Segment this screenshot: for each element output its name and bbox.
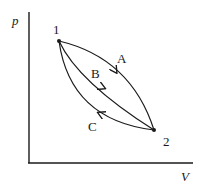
path-a-label: A <box>117 51 127 66</box>
state-point-1 <box>57 39 61 43</box>
point-2-label: 2 <box>163 134 170 149</box>
y-axis-label: p <box>11 13 19 28</box>
path-c-arrow <box>99 113 154 130</box>
path-b-label: B <box>91 66 100 81</box>
point-1-label: 1 <box>53 22 60 37</box>
pv-diagram: p V 1 2 A B C <box>0 0 203 186</box>
state-point-2 <box>152 128 156 132</box>
path-c-label: C <box>88 119 97 134</box>
x-axis-label: V <box>181 169 191 184</box>
